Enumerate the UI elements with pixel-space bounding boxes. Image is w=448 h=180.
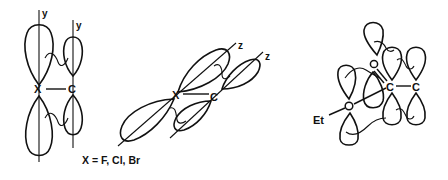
axis-label-y: y (42, 8, 48, 19)
panel-halide-pi-z: X C z z X = F, Cl, Br (82, 40, 270, 166)
carbonyl-o-upper-lobe (364, 23, 383, 56)
interaction-arrow (374, 41, 394, 51)
atom-c: C (68, 83, 76, 95)
ethyl-label: Et (313, 114, 324, 126)
interaction-arrow (346, 118, 386, 134)
axis-label-y: y (76, 20, 82, 31)
c2-lower-lobe (407, 93, 425, 125)
halogen-caption: X = F, Cl, Br (82, 154, 140, 166)
atom-c1: C (386, 81, 394, 93)
panel-ethoxy-carbonyl: C C Et (313, 23, 425, 146)
carbonyl-o-lower-lobe (363, 72, 383, 108)
orbital-diagram: X C y y X C z z X = F, Cl, Br (0, 0, 448, 180)
atom-x: X (172, 89, 180, 101)
axis-label-z: z (265, 51, 270, 62)
c2-upper-lobe (407, 47, 426, 80)
carbonyl-oxygen-atom (370, 60, 377, 67)
axis-label-z: z (238, 40, 243, 51)
et-o-bond (329, 108, 345, 115)
panel-halide-pi-y: X C y y (25, 8, 82, 162)
atom-c: C (210, 91, 218, 103)
ether-oxygen-atom (345, 102, 353, 110)
atom-x: X (34, 83, 42, 95)
ether-o-lower-lobe (340, 113, 358, 145)
o-c-bond (354, 88, 386, 104)
interaction-arrow (396, 109, 414, 119)
c1-upper-lobe (383, 47, 402, 80)
atom-c2: C (412, 81, 420, 93)
